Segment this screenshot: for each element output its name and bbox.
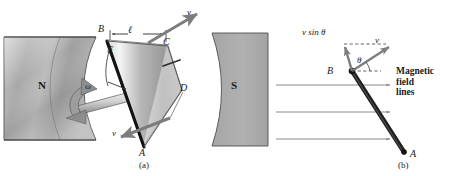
label-velocity-top: v bbox=[187, 8, 191, 17]
label-corner-A-panel-a: A bbox=[139, 148, 145, 158]
rotating-loop bbox=[106, 40, 182, 147]
caption-panel-a: (a) bbox=[139, 161, 149, 170]
caption-panel-b: (b) bbox=[398, 161, 409, 170]
label-corner-B-panel-a: B bbox=[98, 24, 104, 34]
panel-b bbox=[276, 44, 407, 155]
label-magnetic-field-lines: Magnetic field lines bbox=[396, 66, 434, 98]
south-pole-body bbox=[212, 33, 268, 146]
label-corner-C-panel-a: C bbox=[163, 37, 170, 47]
velocity-component-arrow bbox=[345, 47, 352, 71]
label-velocity-bottom: v bbox=[112, 129, 116, 138]
rod-highlight bbox=[351, 70, 402, 150]
label-south-pole: S bbox=[231, 80, 238, 91]
label-velocity-panel-b: v bbox=[375, 36, 379, 45]
label-corner-A-panel-b: A bbox=[410, 149, 416, 159]
label-corner-B-panel-b: B bbox=[327, 66, 333, 76]
mfl-line-3: lines bbox=[396, 87, 414, 97]
label-north-pole: N bbox=[38, 80, 46, 91]
magnetic-field-lines bbox=[276, 85, 390, 139]
label-velocity-component: v sin θ bbox=[302, 28, 325, 37]
label-length-ell: ℓ bbox=[128, 25, 132, 35]
velocity-arrow-top bbox=[148, 14, 197, 43]
mfl-line-1: Magnetic bbox=[396, 66, 434, 76]
angle-arc-theta bbox=[366, 62, 370, 71]
rod-endpoint-A bbox=[401, 149, 407, 155]
magnet-south-pole bbox=[212, 33, 268, 146]
label-angle-theta: θ bbox=[357, 56, 361, 65]
velocity-decomposition bbox=[344, 44, 389, 71]
mfl-line-2: field bbox=[396, 77, 414, 87]
label-corner-D-panel-a: D bbox=[180, 83, 187, 93]
label-angular-velocity: ω bbox=[85, 82, 91, 91]
